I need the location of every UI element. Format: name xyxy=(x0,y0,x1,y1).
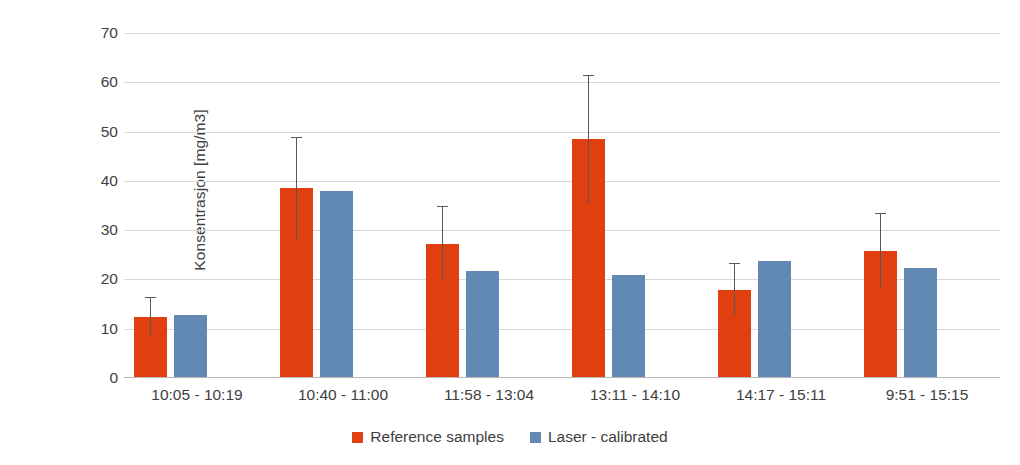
y-tick-label: 10 xyxy=(60,321,118,337)
x-axis-tick-labels: 10:05 - 10:1910:40 - 11:0011:58 - 13:041… xyxy=(124,386,1000,412)
x-axis-line xyxy=(124,377,1000,378)
bar-group xyxy=(416,33,562,378)
chart-legend: Reference samplesLaser - calibrated xyxy=(0,428,1020,446)
error-bar xyxy=(150,298,151,337)
bar-chart: Konsentrasjon [mg/m3] 706050403020100 10… xyxy=(0,0,1020,465)
bar-laser-calibrated[interactable] xyxy=(904,268,937,378)
x-tick-label: 10:05 - 10:19 xyxy=(151,386,242,405)
bar-group xyxy=(708,33,854,378)
legend-swatch-reference xyxy=(352,432,363,443)
x-tick-label: 10:40 - 11:00 xyxy=(298,386,388,405)
x-tick-label: 11:58 - 13:04 xyxy=(444,386,534,405)
legend-label: Laser - calibrated xyxy=(548,428,668,446)
y-tick-label: 70 xyxy=(60,25,118,41)
error-bar-cap-top xyxy=(875,213,886,214)
legend-item[interactable]: Laser - calibrated xyxy=(530,428,668,446)
y-tick-label: 60 xyxy=(60,75,118,91)
y-axis-tick-labels: 706050403020100 xyxy=(60,0,118,465)
y-tick-label: 30 xyxy=(60,222,118,238)
legend-swatch-laser xyxy=(530,432,541,443)
bar-group xyxy=(562,33,708,378)
bar-laser-calibrated[interactable] xyxy=(466,271,499,378)
error-bar-cap-top xyxy=(291,137,302,138)
y-tick-label: 50 xyxy=(60,124,118,140)
x-tick-label: 9:51 - 15:15 xyxy=(886,386,969,405)
bar-group xyxy=(270,33,416,378)
bar-laser-calibrated[interactable] xyxy=(174,315,207,378)
x-tick-label: 14:17 - 15:11 xyxy=(736,386,826,405)
plot-area xyxy=(124,33,1000,378)
error-bar-cap-top xyxy=(583,75,594,76)
error-bar xyxy=(734,264,735,315)
x-tick-label: 13:11 - 14:10 xyxy=(590,386,680,405)
legend-item[interactable]: Reference samples xyxy=(352,428,504,446)
bar-laser-calibrated[interactable] xyxy=(758,261,791,378)
error-bar xyxy=(296,138,297,240)
error-bar xyxy=(442,207,443,281)
error-bar-cap-top xyxy=(437,206,448,207)
y-tick-label: 20 xyxy=(60,272,118,288)
bar-group xyxy=(124,33,270,378)
legend-label: Reference samples xyxy=(370,428,504,446)
error-bar-cap-top xyxy=(729,263,740,264)
error-bar xyxy=(880,214,881,287)
bar-group xyxy=(854,33,1000,378)
error-bar-cap-top xyxy=(145,297,156,298)
error-bar xyxy=(588,76,589,203)
bar-laser-calibrated[interactable] xyxy=(612,275,645,379)
y-tick-label: 40 xyxy=(60,173,118,189)
y-tick-label: 0 xyxy=(60,370,118,386)
bar-laser-calibrated[interactable] xyxy=(320,191,353,378)
